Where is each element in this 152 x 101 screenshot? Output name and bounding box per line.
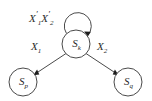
- node-label-sq: Sq: [118, 76, 139, 90]
- edge-line-k-to-q: [86, 54, 116, 74]
- self-loop-label-x2-prime: ′: [48, 9, 50, 19]
- node-label-sp: Sp: [13, 76, 34, 90]
- edge-label-x1-base: X: [31, 40, 38, 52]
- self-loop-label-x2-base: X: [41, 12, 48, 24]
- self-loop-label-x1-base: X: [29, 12, 36, 24]
- edge-label-x2: X2: [97, 41, 107, 55]
- self-loop-label-x2-sub: 2: [50, 19, 54, 27]
- edge-line-k-to-p: [37, 54, 67, 74]
- edge-label-x2-base: X: [97, 40, 104, 52]
- edge-label-x2-sub: 2: [104, 47, 108, 55]
- state-transition-diagram: Sk Sp Sq X′1X′2 X1 X2: [0, 0, 152, 101]
- edge-label-x1-sub: 1: [38, 47, 42, 55]
- self-loop-label: X′1X′2: [29, 10, 53, 27]
- self-loop-label-x1-prime: ′: [36, 9, 38, 19]
- edge-label-x1: X1: [31, 41, 41, 55]
- node-label-sk: Sk: [66, 38, 87, 52]
- node-label-sq-sub: q: [130, 82, 134, 90]
- node-label-sk-sub: k: [78, 44, 81, 52]
- node-label-sp-sub: p: [25, 82, 29, 90]
